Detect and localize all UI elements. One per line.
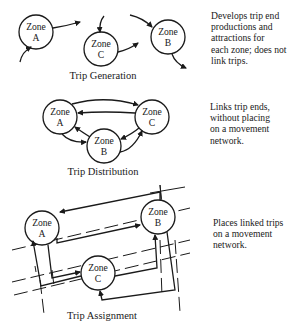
svg-text:Zone: Zone <box>148 206 168 217</box>
svg-text:Zone: Zone <box>88 262 108 273</box>
svg-text:Zone: Zone <box>158 26 178 37</box>
description-trip-generation: Develops trip end productions and attrac… <box>211 10 286 66</box>
caption-trip-assignment: Trip Assignment <box>67 310 137 321</box>
arrow-icon <box>172 54 186 68</box>
arrow-icon <box>53 22 80 28</box>
arrow-icon <box>130 15 152 27</box>
arrow-icon <box>20 47 31 62</box>
caption-trip-generation: Trip Generation <box>70 70 138 81</box>
svg-text:A: A <box>33 32 40 43</box>
svg-text:A: A <box>57 117 64 128</box>
svg-text:C: C <box>95 273 101 284</box>
svg-text:B: B <box>155 217 161 228</box>
arrow-icon <box>100 16 104 32</box>
description-trip-assignment: Places linked trips on a movement networ… <box>213 217 283 251</box>
description-trip-distribution: Links trip ends, without placing on a mo… <box>210 101 270 146</box>
svg-text:Zone: Zone <box>50 106 70 117</box>
svg-text:Zone: Zone <box>142 106 162 117</box>
svg-text:C: C <box>149 117 155 128</box>
svg-text:Zone: Zone <box>94 135 114 146</box>
svg-text:Zone: Zone <box>91 38 111 49</box>
caption-trip-distribution: Trip Distribution <box>67 166 139 177</box>
svg-text:C: C <box>98 49 104 60</box>
zone-a-label: Zone <box>26 21 46 32</box>
trip-assignment-diagram <box>12 185 190 314</box>
arrow-icon <box>118 43 138 52</box>
svg-text:B: B <box>165 37 171 48</box>
svg-text:B: B <box>101 146 107 157</box>
svg-text:Zone: Zone <box>32 217 52 228</box>
svg-text:A: A <box>39 228 46 239</box>
